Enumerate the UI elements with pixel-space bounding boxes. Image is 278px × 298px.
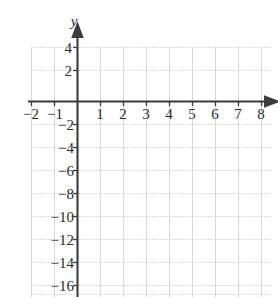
y-tick-label: 2 bbox=[65, 64, 73, 79]
x-tick-label: 4 bbox=[165, 107, 173, 122]
y-tick-label: −16 bbox=[51, 279, 74, 294]
x-tick-label: 7 bbox=[234, 107, 242, 122]
x-tick-label: 2 bbox=[119, 107, 127, 122]
x-tick-label: −2 bbox=[23, 107, 39, 122]
y-tick-label: −14 bbox=[51, 256, 74, 271]
y-tick-label: −8 bbox=[58, 187, 74, 202]
x-tick-label: 6 bbox=[211, 107, 219, 122]
coordinate-grid-figure: y −2 −1 1 2 3 4 5 6 7 8 4 2 −2 −4 −6 −8 … bbox=[0, 0, 278, 298]
y-tick-label: −6 bbox=[58, 164, 74, 179]
y-tick-label: −2 bbox=[58, 118, 74, 133]
x-tick-label: 3 bbox=[142, 107, 150, 122]
plot-canvas bbox=[0, 0, 278, 298]
y-tick-label: −12 bbox=[51, 233, 74, 248]
y-tick-label: −10 bbox=[51, 210, 74, 225]
x-tick-label: 8 bbox=[257, 107, 265, 122]
x-tick-label: 1 bbox=[96, 107, 104, 122]
y-tick-label: −4 bbox=[58, 141, 74, 156]
y-tick-label: 4 bbox=[65, 41, 73, 56]
x-tick-label: 5 bbox=[188, 107, 196, 122]
y-axis-label: y bbox=[71, 14, 78, 29]
